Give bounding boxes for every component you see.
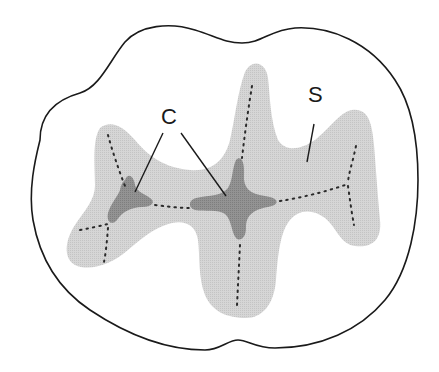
- label-c: C: [161, 106, 177, 128]
- light-region: [67, 63, 381, 318]
- tooth-diagram: [0, 0, 439, 372]
- label-s: S: [308, 84, 323, 106]
- diagram-canvas: C S: [0, 0, 439, 372]
